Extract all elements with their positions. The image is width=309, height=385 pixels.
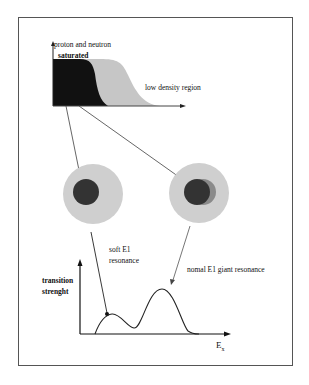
label-resonance: resonance [109, 256, 139, 265]
label-transition: transition [42, 276, 73, 285]
label-strenght: strenght [42, 287, 69, 296]
diagram-graphics [0, 0, 309, 385]
label-ex-sub: x [222, 346, 225, 352]
label-soft-e1: soft E1 [109, 245, 130, 254]
strength-curve [95, 289, 199, 334]
soft-e1-arrow [91, 232, 109, 316]
density-x-arrowhead-icon [180, 104, 186, 108]
label-saturated: saturated [58, 51, 88, 60]
nucleus-left [63, 164, 123, 224]
normal-e1-arrow [170, 226, 190, 285]
label-proton-neutron: proton and neutron [54, 40, 111, 49]
label-low-density-region: low density region [145, 83, 201, 92]
spectrum-y-arrowhead-icon [78, 259, 83, 266]
label-normal-e1-giant-resonance: nomal E1 giant resonance [187, 265, 265, 274]
spectrum-x-arrowhead-icon [224, 332, 231, 337]
nucleus-right [169, 163, 229, 223]
label-ex: Ex [216, 340, 225, 352]
